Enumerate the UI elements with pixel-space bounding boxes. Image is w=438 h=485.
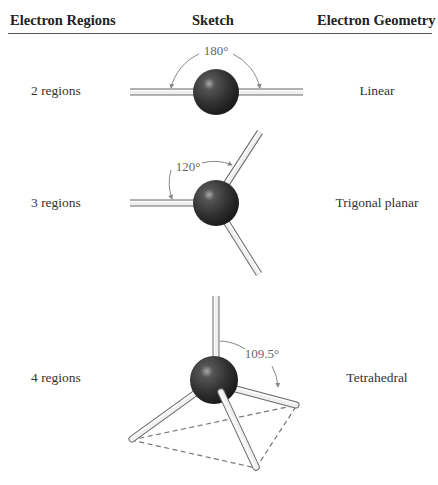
- molecule-sketches: 180° 120°: [0, 0, 438, 485]
- central-atom-sphere: [193, 69, 239, 115]
- angle-label-109-5: 109.5°: [245, 346, 279, 361]
- tetrahedral-molecule-sketch: 109.5°: [131, 296, 297, 468]
- tetrahedron-base-dashed-outline: [131, 405, 297, 468]
- bond-rod-right: [232, 387, 296, 406]
- angle-label-120: 120°: [176, 159, 201, 174]
- bond-rod-left: [130, 91, 200, 93]
- bond-rod-left: [130, 202, 200, 204]
- bond-rod-front: [220, 392, 256, 467]
- trigonal-planar-molecule-sketch: 120°: [130, 131, 260, 274]
- bond-rod-top: [215, 296, 217, 360]
- bond-rod-upper-right: [224, 131, 260, 186]
- linear-molecule-sketch: 180°: [130, 43, 303, 115]
- bond-rod-right: [232, 91, 303, 93]
- bond-rod-left: [131, 391, 197, 439]
- bond-rod-lower-right: [225, 219, 260, 274]
- central-atom-sphere: [193, 180, 239, 226]
- angle-label-180: 180°: [204, 43, 229, 58]
- central-atom-sphere: [190, 356, 238, 404]
